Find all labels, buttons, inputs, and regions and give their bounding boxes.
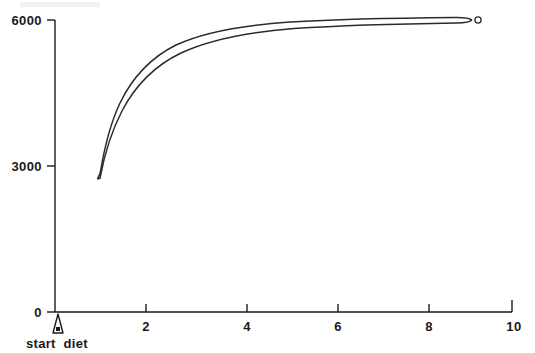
chart-plot-area [0,0,535,353]
y-tick-label-6000: 6000 [0,13,42,28]
start-diet-label: start diet [26,336,88,351]
open-circle-marker [475,17,481,23]
series-upper-bound [100,17,472,174]
y-tick-label-0: 0 [0,305,42,320]
x-tick-label-4: 4 [227,319,267,334]
triangle-pointer-core [56,327,60,331]
x-tick-label-10: 10 [494,319,534,334]
x-tick-label-2: 2 [126,319,166,334]
x-tick-label-8: 8 [409,319,449,334]
x-tick-label-6: 6 [318,319,358,334]
series-lower-bound [100,20,472,178]
y-tick-label-3000: 3000 [0,159,42,174]
chart-figure: 6000 3000 0 2 4 6 8 10 start diet [0,0,535,353]
